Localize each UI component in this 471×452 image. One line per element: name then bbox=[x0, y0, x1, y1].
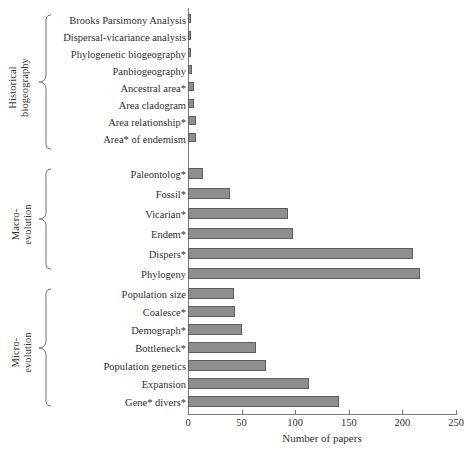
bar-label: Phylogeny bbox=[141, 269, 186, 280]
bar-label: Population size bbox=[122, 289, 186, 300]
bar-dispers: Dispers* bbox=[188, 248, 413, 259]
bar-label: Dispersal-vicariance analysis bbox=[63, 32, 186, 43]
x-tick bbox=[188, 410, 189, 415]
plot-area: Brooks Parsimony Analysis Dispersal-vica… bbox=[188, 0, 456, 414]
bar-label: Area* of endemism bbox=[103, 134, 186, 145]
bar-phylogeny: Phylogeny bbox=[188, 268, 420, 279]
bar-endem: Endem* bbox=[188, 228, 293, 239]
bar-label: Bottleneck* bbox=[135, 343, 186, 354]
group-brace-historical bbox=[38, 14, 52, 150]
x-tick-label: 200 bbox=[395, 417, 411, 428]
bar-fossil: Fossil* bbox=[188, 188, 230, 199]
bar-label: Endem* bbox=[151, 229, 186, 240]
bar-phylogenetic-biogeography: Phylogenetic biogeography bbox=[188, 48, 191, 57]
bar-population-genetics: Population genetics bbox=[188, 360, 266, 371]
bar-label: Vicarian* bbox=[145, 209, 186, 220]
bar-coalesce: Coalesce* bbox=[188, 306, 235, 317]
bar-area-relationship: Area relationship* bbox=[188, 116, 196, 125]
bar-label: Dispers* bbox=[149, 249, 186, 260]
group-brace-micro bbox=[38, 288, 52, 407]
bar-paleontolog: Paleontolog* bbox=[188, 168, 203, 179]
bar-dispersal-vicariance-analysis: Dispersal-vicariance analysis bbox=[188, 31, 191, 40]
bar-area-of-endemism: Area* of endemism bbox=[188, 133, 196, 142]
x-tick-label: 50 bbox=[236, 417, 247, 428]
bar-chart: Historical biogeography Macro- evolution… bbox=[0, 0, 471, 452]
x-tick bbox=[349, 410, 350, 415]
group-label-historical: Historical biogeography bbox=[7, 18, 30, 158]
bar-population-size: Population size bbox=[188, 288, 234, 299]
group-label-macro: Macro- evolution bbox=[10, 155, 33, 295]
bar-label: Gene* divers* bbox=[125, 397, 186, 408]
x-axis-line bbox=[188, 414, 456, 415]
bar-label: Population genetics bbox=[103, 361, 186, 372]
x-tick bbox=[456, 410, 457, 415]
bar-label: Demograph* bbox=[131, 325, 186, 336]
x-tick-label: 150 bbox=[341, 417, 357, 428]
bar-label: Expansion bbox=[142, 379, 186, 390]
x-tick bbox=[242, 410, 243, 415]
bar-ancestral-area: Ancestral area* bbox=[188, 82, 194, 91]
bar-gene-divers: Gene* divers* bbox=[188, 396, 339, 407]
bar-label: Panbiogeography bbox=[113, 66, 187, 77]
bar-area-cladogram: Area cladogram bbox=[188, 99, 194, 108]
bar-label: Paleontolog* bbox=[131, 169, 186, 180]
bar-bottleneck: Bottleneck* bbox=[188, 342, 256, 353]
bar-label: Area relationship* bbox=[108, 117, 186, 128]
x-tick bbox=[295, 410, 296, 415]
bar-label: Fossil* bbox=[156, 189, 186, 200]
x-tick-label: 250 bbox=[448, 417, 464, 428]
x-tick bbox=[402, 410, 403, 415]
bar-brooks-parsimony-analysis: Brooks Parsimony Analysis bbox=[188, 14, 191, 23]
bar-expansion: Expansion bbox=[188, 378, 309, 389]
bar-label: Ancestral area* bbox=[120, 83, 186, 94]
bar-label: Coalesce* bbox=[143, 307, 186, 318]
bar-label: Brooks Parsimony Analysis bbox=[69, 15, 186, 26]
bar-label: Phylogenetic biogeography bbox=[71, 49, 186, 60]
x-axis-title: Number of papers bbox=[188, 432, 456, 444]
x-tick-label: 100 bbox=[287, 417, 303, 428]
group-label-micro: Micro- evolution bbox=[10, 283, 33, 423]
x-tick-label: 0 bbox=[185, 417, 190, 428]
bar-label: Area cladogram bbox=[119, 100, 186, 111]
bar-panbiogeography: Panbiogeography bbox=[188, 65, 192, 74]
bar-demograph: Demograph* bbox=[188, 324, 242, 335]
group-brace-macro bbox=[38, 168, 52, 270]
bar-vicarian: Vicarian* bbox=[188, 208, 288, 219]
